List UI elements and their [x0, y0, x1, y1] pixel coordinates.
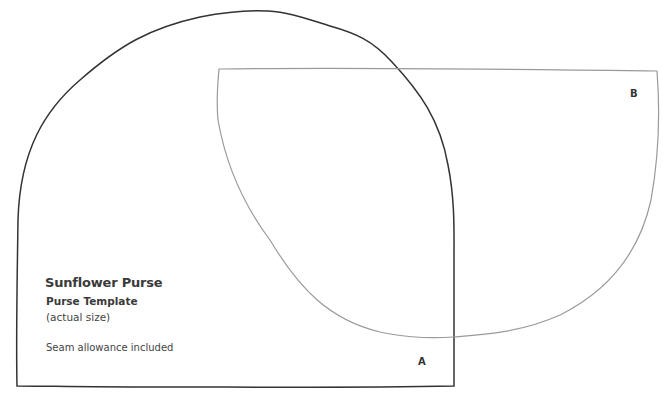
template-title: Sunflower Purse — [45, 275, 162, 290]
piece-b-outline — [217, 68, 659, 337]
template-subtitle: Purse Template — [46, 295, 138, 307]
piece-a-label: A — [418, 356, 426, 367]
piece-a-outline — [17, 11, 454, 388]
seam-allowance-note: Seam allowance included — [46, 342, 173, 353]
pattern-canvas — [0, 0, 663, 394]
size-note: (actual size) — [46, 311, 110, 323]
piece-b-label: B — [630, 88, 638, 99]
